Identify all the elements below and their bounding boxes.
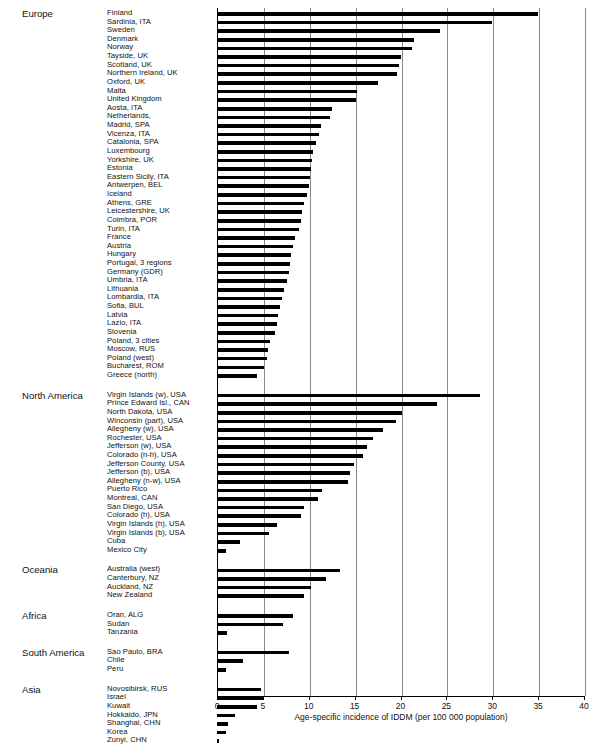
chart-row: Mexico City <box>0 547 603 556</box>
bar <box>217 428 383 432</box>
bar <box>217 586 311 590</box>
chart-row: Rochester, USA <box>0 435 603 444</box>
bar <box>217 55 401 59</box>
chart-row: Finland <box>0 10 603 19</box>
category-label: Tanzania <box>107 628 138 637</box>
chart-row: Hungary <box>0 251 603 260</box>
chart-row: Coimbra, POR <box>0 217 603 226</box>
chart-row: North Dakota, USA <box>0 409 603 418</box>
bar <box>217 714 235 718</box>
bar <box>217 394 480 398</box>
bar <box>217 184 309 188</box>
bar <box>217 614 293 618</box>
chart-row: Lazio, ITA <box>0 320 603 329</box>
bar <box>217 176 310 180</box>
chart-row: Lithuania <box>0 286 603 295</box>
category-label: Zunyi, CHN <box>107 736 147 745</box>
bar <box>217 463 354 467</box>
bar <box>217 159 312 163</box>
bar <box>217 594 304 598</box>
bar <box>217 497 318 501</box>
bar <box>217 696 264 700</box>
bar <box>217 12 538 16</box>
bar <box>217 506 304 510</box>
chart-row: Israel <box>0 694 603 703</box>
bar <box>217 569 340 573</box>
chart-row: Tanzania <box>0 629 603 638</box>
bar <box>217 577 326 581</box>
bar <box>217 705 257 709</box>
chart-row: Madrid, SPA <box>0 122 603 131</box>
chart-row: Norway <box>0 44 603 53</box>
chart-row: Zunyi, CHN <box>0 737 603 746</box>
bar <box>217 21 492 25</box>
chart-row: Novosibirsk, RUS <box>0 686 603 695</box>
chart-row: Prince Edward Isl., CAN <box>0 400 603 409</box>
chart-row: Slovenia <box>0 329 603 338</box>
bar <box>217 253 291 257</box>
bar <box>217 722 228 726</box>
bar <box>217 489 322 493</box>
bar <box>217 514 301 518</box>
chart-row: Auckland, NZ <box>0 584 603 593</box>
bar <box>217 739 219 743</box>
chart-row: Oran, ALG <box>0 612 603 621</box>
bar <box>217 124 321 128</box>
chart-row: Virgin Islands (b), USA <box>0 530 603 539</box>
bar <box>217 81 378 85</box>
chart-row: Jefferson (w), USA <box>0 443 603 452</box>
chart-row: Montreal, CAN <box>0 495 603 504</box>
bar <box>217 549 226 553</box>
bar <box>217 262 290 266</box>
chart-row: Yorkshire, UK <box>0 157 603 166</box>
bar <box>217 271 289 275</box>
chart-row: Cuba <box>0 538 603 547</box>
bar <box>217 340 270 344</box>
chart-row: Shanghai, CHN <box>0 720 603 729</box>
chart-row: Austria <box>0 243 603 252</box>
chart-row: Sao Paulo, BRA <box>0 649 603 658</box>
chart-row: Eastern Sicily, ITA <box>0 174 603 183</box>
bar <box>217 98 356 102</box>
chart-row: Jefferson County, USA <box>0 461 603 470</box>
chart-row: Lombardia, ITA <box>0 294 603 303</box>
bar <box>217 228 299 232</box>
chart-row: Athens, GRE <box>0 200 603 209</box>
bar <box>217 141 316 145</box>
bar <box>217 374 257 378</box>
chart-row: Denmark <box>0 36 603 45</box>
chart-row: Virgin Islands (w), USA <box>0 392 603 401</box>
chart-row: Scotland, UK <box>0 62 603 71</box>
chart-row: Poland (west) <box>0 355 603 364</box>
chart-row: Winconsin (part), USA <box>0 418 603 427</box>
chart-row: Puerto Rico <box>0 486 603 495</box>
chart-row: Canterbury, NZ <box>0 575 603 584</box>
chart-row: Moscow, RUS <box>0 346 603 355</box>
bar <box>217 659 243 663</box>
chart-row: Sardinia, ITA <box>0 19 603 28</box>
chart-row: Aosta, ITA <box>0 105 603 114</box>
chart-row: Australia (west) <box>0 566 603 575</box>
bar <box>217 420 396 424</box>
bar <box>217 314 278 318</box>
category-label: New Zealand <box>107 591 152 600</box>
chart-row: Antwerpen, BEL <box>0 182 603 191</box>
bar <box>217 90 357 94</box>
chart-row: Colorado (h), USA <box>0 512 603 521</box>
category-label: Peru <box>107 665 123 674</box>
bar <box>217 107 332 111</box>
bar <box>217 133 319 137</box>
chart-row: Kuwait <box>0 703 603 712</box>
bar <box>217 193 307 197</box>
chart-row: Netherlands, <box>0 113 603 122</box>
chart-row: Malta <box>0 88 603 97</box>
chart-row: Estonia <box>0 165 603 174</box>
bar <box>217 651 289 655</box>
bar <box>217 402 437 406</box>
chart-row: Peru <box>0 666 603 675</box>
chart-row: Leicestershire, UK <box>0 208 603 217</box>
bar <box>217 540 240 544</box>
bar <box>217 731 226 735</box>
bar <box>217 454 363 458</box>
